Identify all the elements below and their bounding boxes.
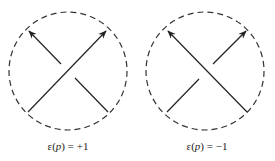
- under-strand-lower: [167, 79, 199, 112]
- positive-crossing-panel: [9, 12, 127, 130]
- over-strand: [168, 31, 247, 112]
- under-strand-upper: [213, 31, 246, 64]
- under-strand-lower: [75, 78, 108, 112]
- negative-crossing-panel: [146, 12, 264, 130]
- under-strand-upper: [29, 31, 61, 64]
- crossing-diagram: [0, 0, 275, 161]
- label-positive: ε(p) = +1: [8, 140, 128, 152]
- over-strand: [28, 31, 106, 112]
- dashed-circle: [146, 12, 264, 130]
- label-negative: ε(p) = −1: [147, 140, 267, 152]
